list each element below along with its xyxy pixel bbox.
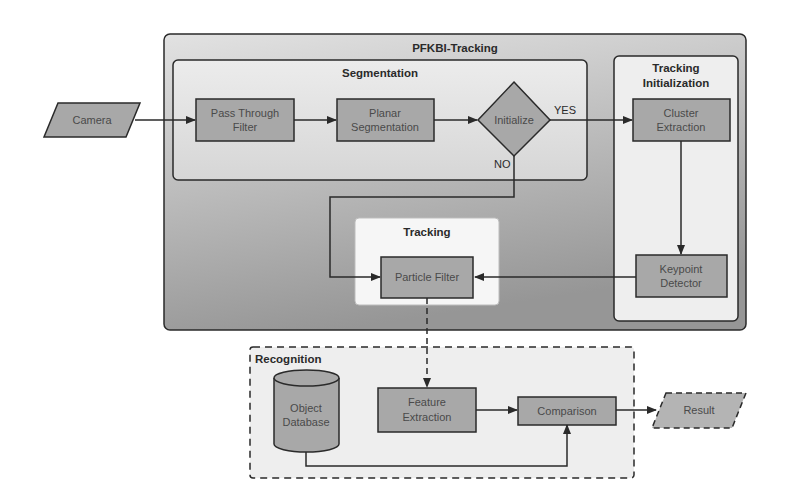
- result-label: Result: [683, 404, 714, 416]
- planar-label-line1: Planar: [369, 107, 401, 119]
- node-pass-through-filter: Pass Through Filter: [196, 99, 294, 141]
- pfkbi-tracking-diagram: PFKBI-Tracking Segmentation Tracking Ini…: [0, 0, 791, 502]
- cluster-label-line2: Extraction: [657, 121, 706, 133]
- tracking-initialization-title-line2: Initialization: [643, 77, 709, 89]
- feature-label-line2: Extraction: [403, 411, 452, 423]
- node-result: Result: [652, 393, 746, 428]
- keypoint-label-line2: Detector: [660, 277, 702, 289]
- recognition-title: Recognition: [255, 353, 321, 365]
- particle-filter-label: Particle Filter: [395, 271, 460, 283]
- cluster-label-line1: Cluster: [664, 107, 699, 119]
- node-comparison: Comparison: [518, 397, 616, 425]
- database-label-line1: Object: [290, 402, 322, 414]
- tracking-initialization-title-line1: Tracking: [652, 62, 699, 74]
- tracking-title: Tracking: [403, 226, 450, 238]
- camera-label: Camera: [72, 114, 112, 126]
- keypoint-label-line1: Keypoint: [660, 263, 703, 275]
- node-feature-extraction: Feature Extraction: [378, 388, 476, 432]
- planar-label-line2: Segmentation: [351, 121, 419, 133]
- node-cluster-extraction: Cluster Extraction: [633, 99, 730, 141]
- initialize-label: Initialize: [494, 114, 534, 126]
- node-object-database: Object Database: [274, 370, 339, 452]
- comparison-label: Comparison: [537, 405, 596, 417]
- segmentation-title: Segmentation: [342, 67, 418, 79]
- node-camera: Camera: [44, 103, 140, 137]
- node-particle-filter: Particle Filter: [381, 257, 473, 298]
- database-label-line2: Database: [282, 416, 329, 428]
- pfkbi-tracking-title: PFKBI-Tracking: [412, 42, 498, 54]
- pass-through-label-line1: Pass Through: [211, 107, 279, 119]
- node-planar-segmentation: Planar Segmentation: [337, 99, 434, 141]
- node-keypoint-detector: Keypoint Detector: [636, 255, 727, 297]
- edge-label-no: NO: [494, 158, 511, 170]
- edge-label-yes: YES: [554, 104, 576, 116]
- pass-through-label-line2: Filter: [233, 121, 258, 133]
- feature-label-line1: Feature: [408, 396, 446, 408]
